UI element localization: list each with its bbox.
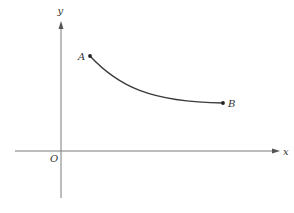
y-axis-arrow-icon bbox=[59, 21, 64, 29]
curve-a-to-b bbox=[90, 56, 223, 103]
point-a: A bbox=[77, 51, 92, 62]
point-a-label: A bbox=[77, 51, 85, 62]
point-b: B bbox=[221, 98, 235, 109]
y-axis: y bbox=[57, 5, 64, 198]
coordinate-diagram: x y O A B bbox=[0, 0, 294, 213]
point-a-dot bbox=[88, 54, 92, 58]
y-axis-label: y bbox=[57, 5, 64, 16]
point-b-label: B bbox=[227, 98, 235, 109]
x-axis-arrow-icon bbox=[272, 149, 280, 154]
x-axis-label: x bbox=[283, 146, 289, 157]
point-b-dot bbox=[221, 101, 225, 105]
origin-label: O bbox=[50, 153, 58, 164]
